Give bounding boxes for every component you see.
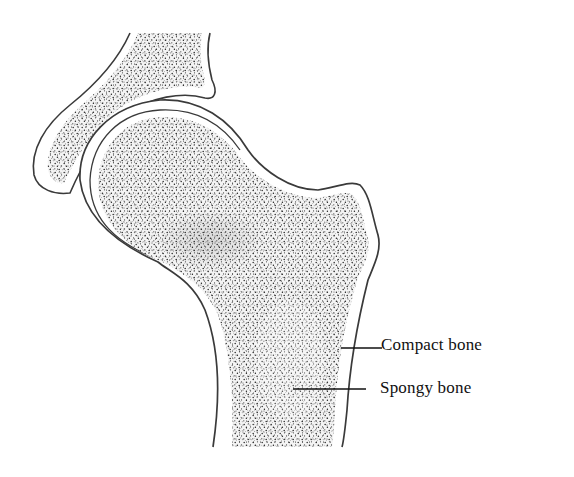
spongy-bone-label: Spongy bone bbox=[380, 378, 471, 398]
compact-bone-label: Compact bone bbox=[381, 335, 482, 355]
femur bbox=[80, 100, 379, 447]
hip-bone-diagram bbox=[0, 0, 574, 477]
